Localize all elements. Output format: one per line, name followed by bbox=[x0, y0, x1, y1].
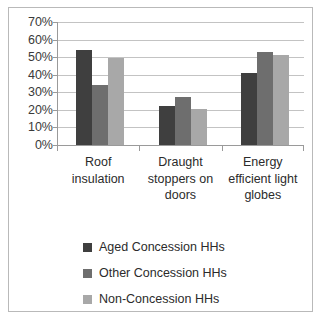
bar-group bbox=[241, 22, 289, 145]
bar-group bbox=[159, 22, 207, 145]
x-axis-category-label: Energyefficient lightglobes bbox=[216, 154, 310, 204]
bar[interactable] bbox=[257, 52, 273, 145]
y-axis-tick-mark bbox=[53, 92, 58, 93]
x-axis-category-label-line: Energy bbox=[216, 154, 310, 171]
y-axis-tick-label: 20% bbox=[11, 104, 53, 117]
bar[interactable] bbox=[273, 55, 289, 145]
legend-item[interactable]: Aged Concession HHs bbox=[83, 236, 273, 258]
legend-label: Aged Concession HHs bbox=[99, 241, 225, 254]
bar[interactable] bbox=[159, 106, 175, 145]
bar[interactable] bbox=[241, 73, 257, 145]
x-axis-tick-mark bbox=[57, 146, 58, 151]
bar-group bbox=[76, 22, 124, 145]
y-axis-tick-mark bbox=[53, 40, 58, 41]
y-axis-tick-mark bbox=[53, 75, 58, 76]
bar[interactable] bbox=[191, 109, 207, 145]
y-axis-tick-label: 60% bbox=[11, 33, 53, 46]
y-axis-tick-label: 50% bbox=[11, 51, 53, 64]
x-axis-category-label-line: globes bbox=[216, 187, 310, 204]
legend-swatch-icon bbox=[83, 269, 92, 278]
x-axis-tick-mark bbox=[303, 146, 304, 151]
x-axis-labels: RoofinsulationDraughtstoppers ondoorsEne… bbox=[57, 154, 304, 212]
legend-item[interactable]: Non-Concession HHs bbox=[83, 288, 273, 310]
chart-frame: 0%10%20%30%40%50%60%70% RoofinsulationDr… bbox=[8, 7, 313, 312]
y-axis-tick-label: 30% bbox=[11, 86, 53, 99]
legend-item[interactable]: Other Concession HHs bbox=[83, 262, 273, 284]
x-axis-category-label: Draughtstoppers ondoors bbox=[133, 154, 227, 204]
x-axis-category-label-line: Roof bbox=[51, 154, 145, 171]
x-axis-line bbox=[57, 145, 304, 146]
y-axis-tick-mark bbox=[53, 110, 58, 111]
x-axis-category-label-line: stoppers on bbox=[133, 171, 227, 188]
legend-label: Other Concession HHs bbox=[99, 267, 227, 280]
bar[interactable] bbox=[108, 58, 124, 145]
bar[interactable] bbox=[92, 85, 108, 145]
y-axis-tick-label: 10% bbox=[11, 121, 53, 134]
x-axis-category-label-line: doors bbox=[133, 187, 227, 204]
y-axis-tick-label: 0% bbox=[11, 139, 53, 152]
y-axis-tick-mark bbox=[53, 57, 58, 58]
legend-swatch-icon bbox=[83, 295, 92, 304]
y-axis-tick-label: 40% bbox=[11, 68, 53, 81]
legend-label: Non-Concession HHs bbox=[99, 293, 219, 306]
y-axis-tick-mark bbox=[53, 22, 58, 23]
x-axis-category-label-line: efficient light bbox=[216, 171, 310, 188]
x-axis-category-label: Roofinsulation bbox=[51, 154, 145, 187]
x-axis-category-label-line: insulation bbox=[51, 171, 145, 188]
y-axis-tick-mark bbox=[53, 127, 58, 128]
x-axis-tick-mark bbox=[139, 146, 140, 151]
y-axis-labels: 0%10%20%30%40%50%60%70% bbox=[9, 22, 53, 146]
legend-swatch-icon bbox=[83, 243, 92, 252]
x-axis-category-label-line: Draught bbox=[133, 154, 227, 171]
bar[interactable] bbox=[175, 97, 191, 145]
y-axis-tick-label: 70% bbox=[11, 16, 53, 29]
chart-legend: Aged Concession HHsOther Concession HHsN… bbox=[83, 236, 273, 314]
plot-area bbox=[57, 22, 304, 146]
bar[interactable] bbox=[76, 50, 92, 145]
x-axis-tick-mark bbox=[222, 146, 223, 151]
